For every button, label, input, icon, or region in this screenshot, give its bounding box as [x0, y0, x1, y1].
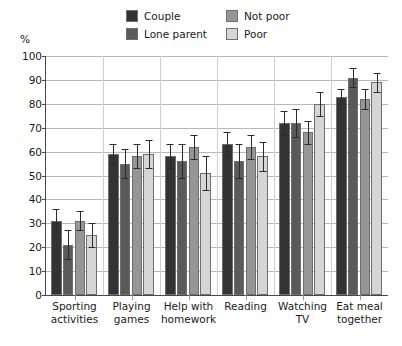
- error-bar-cap-lower: [316, 116, 323, 117]
- y-axis-tick-mark: [42, 80, 46, 81]
- legend-label: Poor: [244, 28, 267, 40]
- bar-rect: [360, 99, 371, 295]
- y-axis-tick-mark: [42, 152, 46, 153]
- error-bar-cap-upper: [373, 73, 380, 74]
- bar-rect: [120, 164, 131, 295]
- error-bar-cap-lower: [350, 87, 357, 88]
- error-bar-cap-upper: [224, 132, 231, 133]
- error-bar-cap-upper: [247, 135, 254, 136]
- error-bar-stem: [206, 156, 207, 189]
- x-axis-category-label: Playinggames: [103, 300, 160, 326]
- bar-group: [274, 56, 331, 295]
- error-bar-cap-upper: [88, 223, 95, 224]
- bar-rect: [165, 156, 176, 295]
- bar: [63, 56, 74, 295]
- x-axis-category-label-line: Reading: [217, 300, 274, 313]
- error-bar-stem: [239, 144, 240, 177]
- error-bar-stem: [377, 73, 378, 92]
- y-axis-tick-mark: [42, 295, 46, 296]
- error-bar-stem: [227, 132, 228, 156]
- legend-item: Not poor: [226, 8, 290, 23]
- bar: [189, 56, 200, 295]
- bar: [222, 56, 233, 295]
- error-bar-stem: [341, 89, 342, 103]
- error-bar-cap-lower: [281, 135, 288, 136]
- error-bar-cap-lower: [338, 104, 345, 105]
- error-bar-cap-upper: [53, 209, 60, 210]
- error-bar-stem: [365, 89, 366, 108]
- bar-rect: [279, 123, 290, 295]
- group-separator: [331, 56, 332, 295]
- error-bar-stem: [263, 142, 264, 171]
- error-bar-cap-upper: [202, 156, 209, 157]
- x-axis-category-label: Eat mealtogether: [331, 300, 388, 326]
- error-bar-cap-lower: [88, 247, 95, 248]
- x-axis-category-label: Reading: [217, 300, 274, 313]
- y-axis-tick-mark: [42, 128, 46, 129]
- bar-rect: [132, 156, 143, 295]
- x-axis-category-label-line: TV: [274, 313, 331, 326]
- error-bar-cap-upper: [190, 135, 197, 136]
- y-axis-tick-labels: 0102030405060708090100: [18, 56, 42, 295]
- bar-rect: [314, 104, 325, 295]
- y-axis-tick-mark: [42, 247, 46, 248]
- bar-rect: [303, 132, 314, 295]
- error-bar-stem: [137, 144, 138, 168]
- error-bar-cap-lower: [224, 156, 231, 157]
- error-bar-stem: [125, 149, 126, 178]
- y-axis-tick-label: 70: [20, 123, 42, 133]
- y-axis-tick-label: 10: [20, 266, 42, 276]
- error-bar-stem: [149, 140, 150, 169]
- bar: [51, 56, 62, 295]
- error-bar-stem: [68, 230, 69, 259]
- bar: [348, 56, 359, 295]
- error-bar-cap-lower: [179, 178, 186, 179]
- x-axis-category-label: Sportingactivities: [46, 300, 103, 326]
- bar: [360, 56, 371, 295]
- bar: [303, 56, 314, 295]
- y-axis-tick-mark: [42, 223, 46, 224]
- legend-swatch-icon: [126, 10, 138, 22]
- error-bar-cap-upper: [76, 211, 83, 212]
- y-axis-tick-label: 0: [20, 290, 42, 300]
- bar: [291, 56, 302, 295]
- error-bar-stem: [92, 223, 93, 247]
- error-bar-cap-upper: [145, 140, 152, 141]
- error-bar-stem: [308, 121, 309, 145]
- error-bar-cap-lower: [293, 137, 300, 138]
- bar: [234, 56, 245, 295]
- error-bar-stem: [194, 135, 195, 159]
- error-bar-cap-upper: [316, 92, 323, 93]
- error-bar-cap-lower: [361, 109, 368, 110]
- error-bar-cap-upper: [65, 230, 72, 231]
- bar-group: [46, 56, 103, 295]
- x-axis-category-label: Help withhomework: [160, 300, 217, 326]
- group-separator: [217, 56, 218, 295]
- bar-group: [160, 56, 217, 295]
- error-bar-cap-upper: [338, 89, 345, 90]
- x-axis-category-label-line: games: [103, 313, 160, 326]
- legend-swatch-icon: [226, 28, 238, 40]
- error-bar-cap-lower: [133, 168, 140, 169]
- y-axis-tick-mark: [42, 56, 46, 57]
- error-bar-stem: [170, 144, 171, 168]
- error-bar-cap-upper: [110, 144, 117, 145]
- error-bar-stem: [56, 209, 57, 233]
- x-axis-category-label-line: Eat meal: [331, 300, 388, 313]
- error-bar-cap-lower: [122, 178, 129, 179]
- bar: [200, 56, 211, 295]
- bar-rect: [234, 161, 245, 295]
- y-axis-tick-label: 30: [20, 218, 42, 228]
- bar: [143, 56, 154, 295]
- group-separator: [274, 56, 275, 295]
- y-axis-tick-label: 40: [20, 194, 42, 204]
- legend-label: Not poor: [244, 10, 290, 22]
- error-bar-cap-lower: [259, 171, 266, 172]
- error-bar-stem: [353, 68, 354, 87]
- x-axis-category-label-line: Help with: [160, 300, 217, 313]
- bar-rect: [189, 147, 200, 295]
- bar-rect: [257, 156, 268, 295]
- bar-chart-figure: CoupleLone parentNot poorPoor % 01020304…: [0, 0, 402, 346]
- bar: [120, 56, 131, 295]
- legend-label: Lone parent: [144, 28, 207, 40]
